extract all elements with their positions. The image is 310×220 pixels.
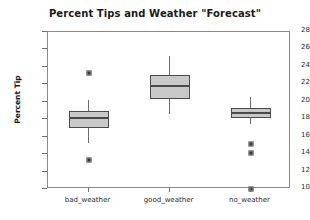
box-iqr <box>69 111 109 128</box>
boxplot-chart: Percent Tips and Weather "Forecast" Perc… <box>0 0 310 220</box>
whisker-lower <box>169 99 170 114</box>
y-tick-label: 22 <box>288 79 310 86</box>
y-tick-label: 14 <box>288 149 310 156</box>
x-tick-label-no_weather: no_weather <box>229 196 270 204</box>
whisker-lower <box>88 128 89 143</box>
y-tick-label: 18 <box>288 114 310 121</box>
x-tick-label-good_weather: good_weather <box>144 196 194 204</box>
whisker-upper <box>250 97 251 108</box>
x-tick-label-bad_weather: bad_weather <box>65 196 110 204</box>
y-axis-label: Percent Tip <box>13 55 22 145</box>
y-tick-label: 10 <box>288 184 310 191</box>
outlier-point <box>248 151 253 156</box>
y-tick-label: 20 <box>288 97 310 104</box>
x-tick-mark <box>169 188 170 192</box>
outlier-point <box>86 70 91 75</box>
x-tick-mark <box>250 188 251 192</box>
y-tick-label: 12 <box>288 167 310 174</box>
whisker-upper <box>88 100 89 111</box>
y-tick-label: 28 <box>288 27 310 34</box>
median-line <box>231 112 271 114</box>
chart-title: Percent Tips and Weather "Forecast" <box>0 8 310 19</box>
plot-area <box>47 31 290 188</box>
outlier-point <box>248 141 253 146</box>
whisker-lower <box>250 118 251 124</box>
median-line <box>69 117 109 119</box>
y-tick-label: 24 <box>288 62 310 69</box>
outlier-point <box>86 158 91 163</box>
median-line <box>150 85 190 87</box>
y-tick-label: 26 <box>288 44 310 51</box>
y-tick-mark <box>42 188 47 189</box>
x-tick-mark <box>88 188 89 192</box>
y-tick-label: 16 <box>288 132 310 139</box>
whisker-upper <box>169 56 170 75</box>
